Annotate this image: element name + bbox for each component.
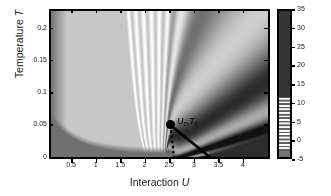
colorbar-tick-label: 20 bbox=[297, 61, 305, 69]
x-axis-title-symbol: U bbox=[182, 176, 190, 188]
colorbar-tick-mark bbox=[292, 9, 295, 11]
colorbar-tick-mark bbox=[292, 103, 295, 105]
colorbar-tick-mark bbox=[292, 122, 295, 124]
x-tick-label: 3 bbox=[181, 161, 207, 168]
x-tick-mark-top bbox=[145, 9, 147, 13]
x-tick-mark-top bbox=[194, 9, 196, 13]
y-tick-mark-right bbox=[264, 60, 268, 62]
x-axis-title: Interaction U bbox=[49, 176, 270, 188]
colorbar-tick-label: 15 bbox=[297, 80, 305, 88]
x-tick-mark-top bbox=[71, 9, 73, 13]
colorbar-tick-label: 0 bbox=[297, 136, 301, 144]
critical-point-label-t: ,T bbox=[187, 116, 195, 126]
x-tick-mark-top bbox=[243, 9, 245, 13]
figure-root: Temperature T Uc,Tc 00.050.10.150.20.511… bbox=[0, 0, 331, 196]
x-tick-mark-top bbox=[120, 9, 122, 13]
y-tick-mark-right bbox=[264, 124, 268, 126]
heatmap-area bbox=[51, 11, 268, 157]
x-tick-mark-top bbox=[96, 9, 98, 13]
colorbar-tick-mark bbox=[292, 47, 295, 49]
x-tick-mark-top bbox=[218, 9, 220, 13]
y-tick-label: 0.1 bbox=[37, 88, 47, 96]
colorbar-tick-mark bbox=[292, 65, 295, 67]
critical-point-marker bbox=[166, 120, 175, 129]
y-tick-label: 0.2 bbox=[37, 24, 47, 32]
plot-panel bbox=[49, 9, 270, 159]
x-axis-title-text: Interaction bbox=[130, 176, 182, 188]
colorbar-canvas bbox=[279, 11, 290, 157]
y-tick-mark bbox=[49, 157, 53, 159]
colorbar-tick-label: 25 bbox=[297, 43, 305, 51]
y-tick-mark-right bbox=[264, 157, 268, 159]
colorbar-tick-label: 30 bbox=[297, 24, 305, 32]
colorbar-tick-mark bbox=[292, 140, 295, 142]
x-tick-mark-top bbox=[169, 9, 171, 13]
x-tick-label: 0.5 bbox=[58, 161, 84, 168]
colorbar bbox=[277, 9, 292, 159]
colorbar-tick-mark bbox=[292, 28, 295, 30]
x-tick-label: 2.5 bbox=[156, 161, 182, 168]
x-tick-label: 1.5 bbox=[107, 161, 133, 168]
y-tick-mark bbox=[49, 92, 53, 94]
x-tick-label: 2 bbox=[132, 161, 158, 168]
x-tick-label: 4 bbox=[230, 161, 256, 168]
y-tick-mark-right bbox=[264, 92, 268, 94]
colorbar-tick-mark bbox=[292, 159, 295, 161]
critical-point-label-sub-c2: c bbox=[195, 120, 198, 127]
colorbar-tick-label: 35 bbox=[297, 5, 305, 13]
y-tick-label: 0.15 bbox=[33, 56, 47, 64]
y-tick-mark bbox=[49, 60, 53, 62]
y-tick-mark bbox=[49, 28, 53, 30]
y-axis-title: Temperature T bbox=[13, 0, 25, 104]
y-axis-title-symbol: T bbox=[13, 10, 25, 16]
heatmap-canvas bbox=[51, 11, 268, 157]
y-tick-label: 0.05 bbox=[33, 120, 47, 128]
x-tick-label: 3.5 bbox=[205, 161, 231, 168]
y-tick-mark bbox=[49, 124, 53, 126]
y-tick-label: 0 bbox=[43, 153, 47, 161]
colorbar-tick-label: -5 bbox=[297, 155, 303, 163]
y-tick-mark-right bbox=[264, 28, 268, 30]
colorbar-tick-label: 10 bbox=[297, 99, 305, 107]
y-axis-title-text: Temperature bbox=[13, 16, 25, 78]
colorbar-tick-label: 5 bbox=[297, 118, 301, 126]
critical-point-label: Uc,Tc bbox=[177, 116, 198, 127]
colorbar-tick-mark bbox=[292, 84, 295, 86]
x-tick-label: 1 bbox=[83, 161, 109, 168]
